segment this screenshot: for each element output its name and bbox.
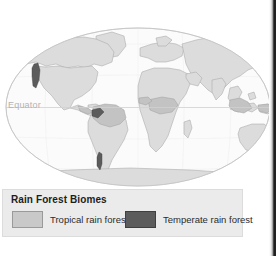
legend-label-temperate: Temperate rain forest — [163, 214, 253, 225]
scan-edge-dark-strip — [272, 0, 276, 256]
map-page: Equator Rain Forest Biomes Tropical rain… — [0, 0, 276, 256]
legend-label-tropical: Tropical rain forest — [50, 214, 128, 225]
japan — [256, 58, 266, 72]
temperate-rain-forest-swatch — [125, 211, 156, 228]
legend-title: Rain Forest Biomes — [11, 194, 107, 205]
world-map-figure: Equator — [0, 0, 276, 200]
tropical-rain-forest-swatch — [12, 211, 43, 228]
antarctica — [16, 168, 264, 190]
equator-label: Equator — [8, 100, 41, 110]
world-map-svg — [0, 0, 276, 200]
map-legend: Rain Forest Biomes Tropical rain forest … — [2, 189, 243, 237]
